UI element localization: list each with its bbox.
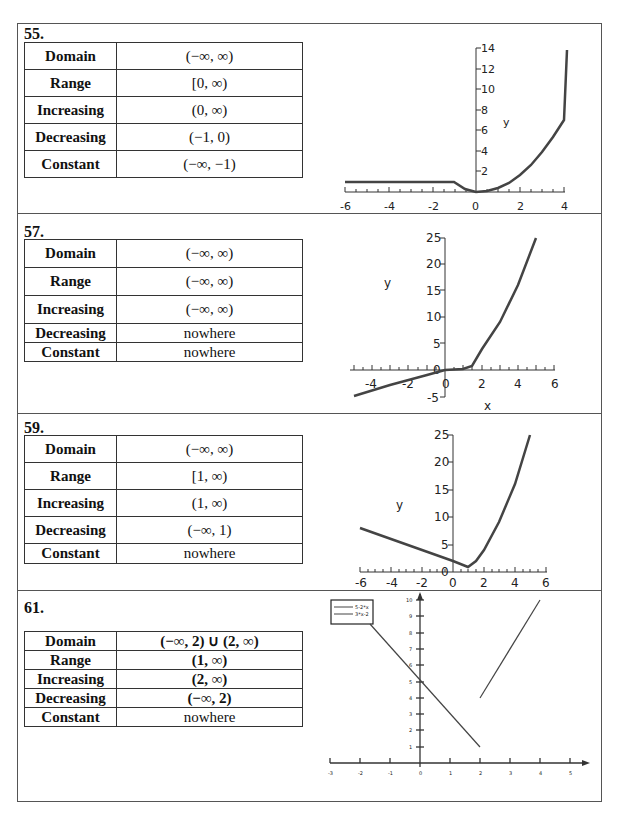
problem-number: 55.	[24, 25, 44, 43]
row-value: (−∞, ∞)	[117, 296, 303, 324]
y-tick: 4	[409, 695, 412, 701]
row-value: (2, ∞)	[117, 670, 303, 689]
y-tick: 14	[481, 42, 495, 55]
x-tick: 2	[478, 377, 486, 391]
x-tick: 0	[472, 200, 479, 213]
row-value: (−1, 0)	[117, 124, 303, 151]
curve-55	[345, 50, 567, 192]
y-axis-label: y	[384, 276, 391, 290]
row-value: (−∞, 1)	[117, 517, 303, 544]
row-label: Range	[25, 268, 117, 296]
row-value: (−∞, ∞)	[117, 43, 303, 70]
legend-entry: 3*x-2	[355, 611, 369, 617]
row-value: (−∞, ∞)	[117, 240, 303, 268]
x-tick: 0	[449, 576, 457, 590]
row-label: Constant	[25, 151, 117, 178]
x-tick: -2	[428, 200, 439, 213]
row-label: Decreasing	[25, 517, 117, 544]
y-tick: 8	[409, 630, 412, 636]
row-value: (−∞, 2) ∪ (2, ∞)	[117, 632, 303, 651]
y-axis-label: y	[503, 116, 510, 129]
x-tick: 6	[542, 576, 550, 590]
row-value: nowhere	[117, 343, 303, 362]
chart-legend: 5-2*x 3*x-2	[331, 600, 373, 624]
row-value: (−∞, 2)	[117, 689, 303, 708]
row-value: (1, ∞)	[117, 490, 303, 517]
graph-55: 2 4 6 8 10 12 14 y -6 -4 -2 0 2 4	[330, 40, 590, 215]
y-axis-label: y	[396, 498, 403, 512]
row-label: Constant	[25, 343, 117, 362]
x-tick: -2	[416, 576, 428, 590]
row-label: Decreasing	[25, 324, 117, 343]
row-label: Domain	[25, 436, 117, 463]
y-tick: 4	[481, 145, 488, 158]
x-tick: 6	[551, 377, 559, 391]
legend-entry: 5-2*x	[355, 604, 369, 610]
x-tick: 0	[442, 377, 450, 391]
x-tick: -6	[340, 200, 351, 213]
x-tick: -4	[386, 576, 398, 590]
x-tick: 4	[514, 377, 522, 391]
y-tick: -5	[427, 391, 439, 405]
y-tick: 8	[481, 104, 488, 117]
y-tick: 15	[426, 284, 441, 298]
y-tick: 5	[441, 538, 449, 552]
x-tick: 0	[419, 770, 422, 776]
y-tick: 20	[434, 455, 449, 469]
graph-59: 0 5 10 15 20 25 y -6 -4 -2 0 2 4 6	[355, 430, 605, 595]
x-tick: -3	[328, 770, 333, 776]
row-value: (−∞, ∞)	[117, 268, 303, 296]
properties-table: Domain(−∞, 2) ∪ (2, ∞) Range(1, ∞) Incre…	[24, 631, 303, 727]
line-5-2x	[370, 624, 480, 747]
row-label: Increasing	[25, 97, 117, 124]
row-value: (−∞, ∞)	[117, 436, 303, 463]
line-3x-2	[480, 600, 540, 698]
properties-table: Domain(−∞, ∞) Range[0, ∞) Increasing(0, …	[24, 42, 303, 178]
y-tick: 15	[434, 483, 449, 497]
x-tick: 4	[511, 576, 519, 590]
row-label: Range	[25, 463, 117, 490]
y-tick: 0	[433, 363, 441, 377]
x-tick: 4	[539, 770, 542, 776]
y-tick: 5	[433, 337, 441, 351]
y-tick: 25	[434, 428, 449, 442]
problem-number: 61.	[24, 599, 44, 617]
row-label: Range	[25, 651, 117, 670]
x-tick: -4	[384, 200, 395, 213]
y-tick: 5	[409, 679, 412, 685]
row-label: Decreasing	[25, 124, 117, 151]
x-axis-label: x	[484, 399, 491, 413]
y-tick: 6	[481, 124, 488, 137]
row-value: nowhere	[117, 324, 303, 343]
row-label: Constant	[25, 544, 117, 564]
x-tick: -6	[355, 576, 367, 590]
x-tick: 2	[479, 770, 482, 776]
row-value: (1, ∞)	[117, 651, 303, 670]
y-tick: 9	[409, 613, 412, 619]
row-label: Domain	[25, 240, 117, 268]
graph-61: 5-2*x 3*x-2 -3 -2 -1 0 1 2 3 4 5	[320, 592, 590, 792]
x-tick: 1	[449, 770, 452, 776]
row-label: Range	[25, 70, 117, 97]
row-label: Domain	[25, 632, 117, 651]
x-tick: 4	[561, 200, 568, 213]
properties-table: Domain(−∞, ∞) Range[1, ∞) Increasing(1, …	[24, 435, 303, 564]
row-value: (0, ∞)	[117, 97, 303, 124]
y-tick: 0	[441, 565, 449, 579]
y-tick: 25	[426, 231, 441, 245]
row-value: nowhere	[117, 708, 303, 727]
row-label: Decreasing	[25, 689, 117, 708]
y-tick: 12	[481, 63, 495, 76]
y-tick: 3	[409, 711, 412, 717]
y-tick: 20	[426, 257, 441, 271]
y-tick: 10	[481, 83, 495, 96]
y-tick: 1	[409, 744, 412, 750]
y-tick: 2	[409, 727, 412, 733]
y-tick: 10	[406, 597, 412, 603]
y-tick: 10	[426, 310, 441, 324]
properties-table: Domain(−∞, ∞) Range(−∞, ∞) Increasing(−∞…	[24, 239, 303, 362]
row-label: Increasing	[25, 296, 117, 324]
y-tick: 2	[481, 165, 488, 178]
x-tick: 2	[480, 576, 488, 590]
x-tick: -2	[358, 770, 363, 776]
